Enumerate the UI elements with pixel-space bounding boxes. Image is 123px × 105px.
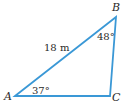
angle-b-label: 48° <box>97 31 115 42</box>
hypotenuse-length-label: 18 m <box>44 42 70 53</box>
triangle-abc <box>15 17 116 96</box>
angle-a-label: 37° <box>32 85 50 96</box>
vertex-label-c: C <box>112 91 121 104</box>
vertex-label-b: B <box>111 1 120 14</box>
triangle-diagram: A B C 18 m 48° 37° <box>0 0 123 105</box>
vertex-label-a: A <box>3 90 12 103</box>
